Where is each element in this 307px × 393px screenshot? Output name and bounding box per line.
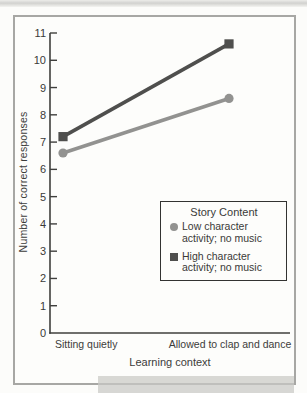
circle-marker-icon xyxy=(170,223,178,231)
y-tick-label: 10 xyxy=(34,54,46,66)
y-tick-label: 6 xyxy=(40,163,46,175)
y-axis-ticks: 01234567891011 xyxy=(34,27,57,339)
y-tick-label: 9 xyxy=(40,82,46,94)
legend-entry-high-label: High character activity; no music xyxy=(182,251,280,275)
x-axis-title: Learning context xyxy=(129,356,210,368)
series-line xyxy=(63,44,229,137)
legend-box: Story Content Low character activity; no… xyxy=(160,201,287,281)
plot-area: 01234567891011 xyxy=(0,0,307,393)
legend-title: Story Content xyxy=(168,206,280,218)
y-tick-label: 7 xyxy=(40,136,46,148)
x-category-clap-and-dance: Allowed to clap and dance xyxy=(169,338,292,350)
circle-marker-icon xyxy=(58,148,67,157)
square-marker-icon xyxy=(58,132,67,141)
y-tick-label: 3 xyxy=(40,245,46,257)
y-tick-label: 0 xyxy=(40,327,46,339)
square-marker-icon xyxy=(170,253,178,261)
y-tick-label: 2 xyxy=(40,272,46,284)
legend-entry-low: Low character activity; no music xyxy=(168,221,280,245)
legend-entry-low-label: Low character activity; no music xyxy=(182,221,280,245)
series-line xyxy=(63,98,229,153)
figure-page: 01234567891011 Number of correct respons… xyxy=(0,0,307,393)
square-marker-icon xyxy=(224,39,233,48)
x-category-sitting-quietly: Sitting quietly xyxy=(55,338,117,350)
y-axis-title: Number of correct responses xyxy=(17,112,29,253)
y-tick-label: 1 xyxy=(40,300,46,312)
y-tick-label: 5 xyxy=(40,191,46,203)
circle-marker-icon xyxy=(224,94,233,103)
y-tick-label: 11 xyxy=(35,27,46,39)
legend-entry-high: High character activity; no music xyxy=(168,251,280,275)
y-tick-label: 8 xyxy=(40,109,46,121)
bottom-shadow-bar xyxy=(98,376,294,393)
y-tick-label: 4 xyxy=(40,218,46,230)
